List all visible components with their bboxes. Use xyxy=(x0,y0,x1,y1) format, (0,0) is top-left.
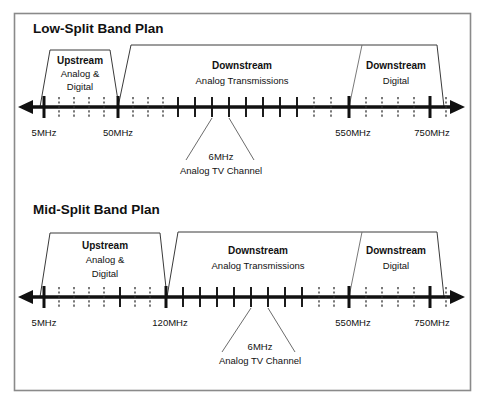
downstream-analog-heading: Downstream xyxy=(228,245,288,256)
axis-label-freq: 120MHz xyxy=(152,317,188,328)
downstream-digital-line1: Digital xyxy=(383,75,409,86)
downstream-digital-line1: Digital xyxy=(383,260,409,271)
axis-label-freq: 550MHz xyxy=(335,317,371,328)
panel-title: Low-Split Band Plan xyxy=(33,21,164,36)
downstream-digital-heading: Downstream xyxy=(366,60,426,71)
downstream-analog-heading: Downstream xyxy=(212,60,272,71)
axis-label-freq: 750MHz xyxy=(414,127,450,138)
downstream-analog-line1: Analog Transmissions xyxy=(212,260,305,271)
callout-line1: 6MHz xyxy=(248,341,273,352)
upstream-heading: Upstream xyxy=(82,240,128,251)
diagram-canvas: Low-Split Band Plan xyxy=(0,0,484,409)
upstream-line1: Analog & xyxy=(86,254,125,265)
callout-line1: 6MHz xyxy=(209,151,234,162)
callout-line2: Analog TV Channel xyxy=(219,355,301,366)
axis-label-freq: 5MHz xyxy=(32,127,57,138)
axis-label-freq: 50MHz xyxy=(103,127,133,138)
upstream-line2: Digital xyxy=(67,81,93,92)
axis-label-freq: 550MHz xyxy=(335,127,371,138)
axis-label-freq: 750MHz xyxy=(414,317,450,328)
callout-line2: Analog TV Channel xyxy=(180,165,262,176)
axis-right-arrow xyxy=(450,290,465,304)
digital-band-divider xyxy=(349,232,362,297)
axis-left-arrow xyxy=(18,290,33,304)
panel-title: Mid-Split Band Plan xyxy=(33,202,160,217)
downstream-analog-line1: Analog Transmissions xyxy=(196,75,289,86)
panel-low-split: Low-Split Band Plan xyxy=(18,21,465,176)
digital-band-divider xyxy=(349,45,362,107)
upstream-line2: Digital xyxy=(92,268,118,279)
axis-right-arrow xyxy=(450,100,465,114)
upstream-line1: Analog & xyxy=(61,68,100,79)
axis-left-arrow xyxy=(18,100,33,114)
panel-mid-split: Mid-Split Band Plan xyxy=(18,202,465,366)
downstream-digital-heading: Downstream xyxy=(366,245,426,256)
upstream-heading: Upstream xyxy=(57,55,103,66)
axis-label-freq: 5MHz xyxy=(32,317,57,328)
